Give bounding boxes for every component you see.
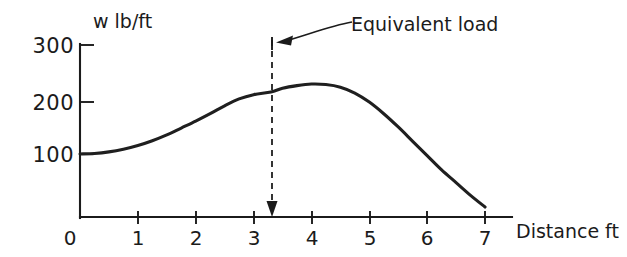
x-tick-label-0: 0 bbox=[64, 226, 77, 250]
load-curve bbox=[80, 84, 485, 207]
chart-canvas: 300 200 100 0 1 2 3 4 5 6 7 w lb/ft Dist… bbox=[0, 0, 627, 257]
y-tick-label-200: 200 bbox=[32, 91, 74, 115]
annotation-label-equivalent-load: Equivalent load bbox=[351, 13, 498, 35]
equivalent-load-down-arrow-icon bbox=[267, 201, 278, 217]
annotation-leader-line bbox=[282, 22, 352, 42]
y-tick-label-300: 300 bbox=[32, 34, 74, 58]
x-axis-title: Distance ft bbox=[516, 220, 619, 242]
y-axis-title: w lb/ft bbox=[93, 10, 152, 32]
x-tick-label-2: 2 bbox=[190, 226, 203, 250]
x-tick-label-4: 4 bbox=[306, 226, 319, 250]
x-tick-label-3: 3 bbox=[248, 226, 261, 250]
x-tick-label-7: 7 bbox=[479, 226, 492, 250]
y-tick-label-100: 100 bbox=[32, 143, 74, 167]
x-tick-label-6: 6 bbox=[421, 226, 434, 250]
y-axis-ticks bbox=[80, 45, 94, 154]
load-diagram-figure: 300 200 100 0 1 2 3 4 5 6 7 w lb/ft Dist… bbox=[0, 0, 627, 257]
x-tick-label-5: 5 bbox=[364, 226, 377, 250]
annotation-arrow-icon bbox=[276, 36, 293, 46]
x-tick-label-1: 1 bbox=[132, 226, 145, 250]
